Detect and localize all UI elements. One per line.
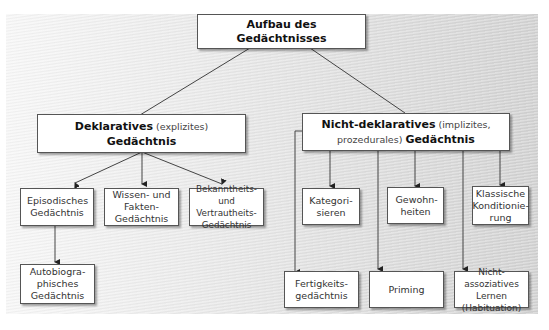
priming-label: Priming [388,284,424,296]
nondeclarative-subtitle-2: prozedurales) [337,134,405,145]
skill-memory-label: Fertigkeits-gedächtnis [293,278,351,302]
classical-conditioning-node: Klassische Konditionie-rung [472,186,529,225]
root-node: Aufbau des Gedächtnisses [197,14,366,49]
episodic-memory-label: Episodisches Gedächtnis [27,195,87,219]
priming-node: Priming [369,271,444,308]
familiarity-memory-node: Bekanntheits- und Vertrautheits-Gedächtn… [189,188,264,226]
declarative-label: Gedächtnis [107,135,177,148]
nondeclarative-node: Nicht-deklaratives (implizites, prozedur… [302,113,510,151]
familiarity-memory-label: Bekanntheits- und Vertrautheits-Gedächtn… [190,183,263,231]
episodic-memory-node: Episodisches Gedächtnis [20,188,94,226]
habituation-label: Nicht-assoziatives Lernen (Habituation) [455,266,528,314]
declarative-node: Deklaratives (explizites) Gedächtnis [37,114,246,153]
habits-node: Gewohn-heiten [387,187,444,224]
root-line2: Gedächtnisses [236,32,326,45]
classical-conditioning-label: Klassische Konditionie-rung [473,188,529,224]
declarative-subtitle: (explizites) [153,121,208,132]
nondeclarative-label: Gedächtnis [405,133,475,146]
habituation-node: Nicht-assoziatives Lernen (Habituation) [454,271,529,308]
autobiographical-memory-label: Autobiogra-phisches Gedächtnis [30,266,86,302]
skill-memory-node: Fertigkeits-gedächtnis [284,271,359,308]
habits-label: Gewohn-heiten [396,194,436,218]
nondeclarative-subtitle-1: (implizites, [435,119,490,130]
categorization-node: Kategori-sieren [302,188,360,225]
categorization-label: Kategori-sieren [308,195,354,219]
root-line1: Aufbau des [247,18,317,31]
semantic-memory-node: Wissen- und Fakten-Gedächtnis [104,188,179,226]
nondeclarative-title: Nicht-deklaratives [321,118,435,131]
semantic-memory-label: Wissen- und Fakten-Gedächtnis [111,189,173,225]
autobiographical-memory-node: Autobiogra-phisches Gedächtnis [20,264,95,304]
declarative-title: Deklaratives [75,120,153,133]
